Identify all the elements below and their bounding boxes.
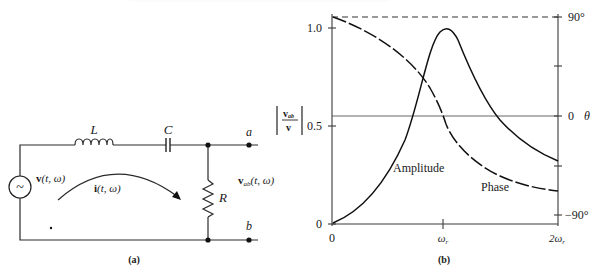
circuit-diagram: ~ L C R a b v(t, ω) i(t, ω) vab(t, ω) (a… [9, 122, 274, 266]
inductor-label: L [89, 122, 97, 137]
terminal-a-dot [246, 142, 251, 147]
x-tick-label-wr: ωr [438, 232, 449, 246]
y2-tick-label-90: 90° [568, 10, 585, 24]
y-axis-title: vab v [277, 106, 302, 135]
y2-tick-label-0: 0 [568, 109, 574, 123]
current-arrowhead-icon [172, 191, 181, 200]
caption-b: (b) [438, 254, 450, 266]
figure: ~ L C R a b v(t, ω) i(t, ω) vab(t, ω) (a… [0, 0, 603, 271]
y2-tick-label-m90: −90° [565, 208, 589, 222]
y-title-denominator: v [286, 122, 291, 133]
frequency-response-chart: 1.0 0.5 0 vab v 90° 0 θ −90° 0 ωr 2ωr Am… [277, 10, 590, 266]
node-bottom [205, 237, 210, 242]
stray-dot [50, 227, 52, 229]
y-tick-label-1: 1.0 [307, 21, 322, 35]
y2-axis-title-theta: θ [584, 109, 590, 123]
inductor-icon [75, 139, 113, 145]
y-title-numerator: vab [283, 108, 294, 119]
x-tick-label-2wr: 2ωr [549, 232, 565, 246]
terminal-b-dot [246, 237, 251, 242]
capacitor-label: C [164, 122, 173, 137]
current-label: i(t, ω) [94, 182, 121, 195]
source-label: v(t, ω) [36, 172, 65, 185]
ac-source-symbol: ~ [16, 180, 24, 195]
terminal-a-label: a [246, 125, 252, 139]
caption-a: (a) [128, 254, 140, 266]
amplitude-annotation: Amplitude [393, 161, 444, 175]
node-top [205, 142, 210, 147]
y-tick-label-0: 0 [316, 217, 322, 231]
x-tick-label-0: 0 [329, 231, 335, 245]
resistor-label: R [218, 190, 227, 205]
phase-annotation: Phase [481, 180, 509, 194]
phase-curve [333, 17, 558, 191]
terminal-b-label: b [246, 219, 252, 233]
amplitude-curve [333, 29, 558, 223]
y-tick-label-05: 0.5 [307, 119, 322, 133]
capacitor-icon [166, 138, 170, 152]
resistor-icon [203, 180, 213, 217]
output-voltage-label: vab(t, ω) [238, 174, 274, 188]
